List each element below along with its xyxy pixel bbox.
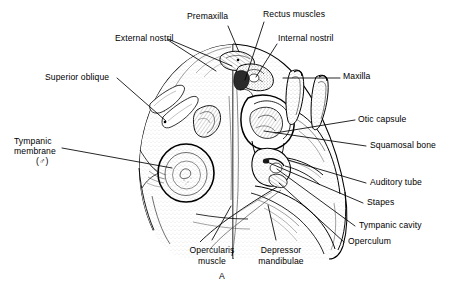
label-opercularis-muscle-line2: muscle [178, 256, 246, 267]
label-premaxilla: Premaxilla [187, 11, 228, 22]
label-tympanic-cavity: Tympanic cavity [359, 220, 422, 231]
label-superior-oblique: Superior oblique [45, 72, 109, 83]
label-auditory-tube: Auditory tube [370, 177, 422, 188]
anatomical-figure: Premaxilla Rectus muscles External nostr… [0, 0, 451, 291]
label-rectus-muscles: Rectus muscles [263, 9, 325, 20]
label-operculum: Operculum [348, 236, 391, 247]
label-external-nostril: External nostril [115, 33, 173, 44]
label-squamosal-bone: Squamosal bone [370, 140, 436, 151]
label-opercularis-muscle: Opercularis [178, 245, 246, 256]
label-maxilla: Maxilla [343, 71, 370, 82]
label-otic-capsule: Otic capsule [358, 114, 407, 125]
label-tympanic-membrane-sex: (♂) [36, 156, 48, 167]
tympanic-membrane-disc [158, 144, 214, 202]
label-depressor-mandibulae-line2: mandibulae [245, 256, 317, 267]
label-depressor-mandibulae: Depressor [245, 245, 317, 256]
figure-caption: A [219, 271, 225, 281]
label-stapes: Stapes [367, 197, 394, 208]
label-internal-nostril: Internal nostril [278, 33, 334, 44]
label-tympanic-membrane: Tympanic [14, 136, 52, 147]
label-tympanic-membrane-line2: membrane [14, 146, 56, 157]
